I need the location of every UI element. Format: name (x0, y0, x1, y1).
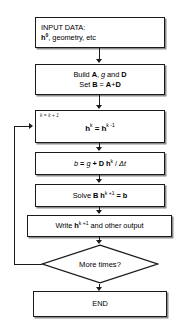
arrowhead-rhs-to-solve-icon (96, 179, 102, 183)
node-solve-system[interactable]: Solve B hk +1 = b (35, 184, 165, 207)
node-iteration-update[interactable]: k = k + 1 hk = hk -1 (35, 110, 165, 143)
build-set-verb: Set (79, 80, 92, 89)
write-h-superscript: k +1 (79, 220, 89, 226)
build-line-2: Set B = A+D (79, 80, 120, 90)
arrowhead-decision-to-end-icon (96, 287, 102, 291)
solve-equals: = (115, 191, 123, 200)
decision-label: More times? (41, 244, 159, 284)
write-suffix: and other output (89, 221, 144, 230)
write-output-text: Write hk +1 and other output (55, 221, 143, 231)
rhs-dh-term: D h (99, 159, 111, 168)
iterate-h-rhs-superscript: k -1 (106, 122, 115, 128)
feedback-loop-segment-bottom (14, 264, 42, 265)
solve-b-rhs: b (123, 191, 127, 200)
build-sep-2: and (105, 70, 121, 79)
node-decision-more-times[interactable]: More times? (41, 244, 159, 284)
node-build-matrices[interactable]: Build A, g and D Set B = A+D (35, 64, 165, 95)
end-label: END (92, 299, 107, 309)
rhs-equation: b = g + D hk / Δt (74, 159, 126, 169)
arrowhead-solve-to-write-icon (96, 210, 102, 214)
iteration-counter-label: k = k + 1 (40, 113, 59, 119)
build-matrix-d: D (121, 70, 126, 79)
rhs-plus: + (90, 159, 98, 168)
arrowhead-iterate-to-rhs-icon (96, 147, 102, 151)
rhs-delta-t: Δt (119, 159, 126, 168)
build-equals: = (98, 80, 106, 89)
solve-bh-superscript: k +1 (105, 189, 115, 195)
feedback-loop-segment-vertical (14, 126, 15, 265)
build-verb: Build (73, 70, 91, 79)
solve-equation: Solve B hk +1 = b (73, 191, 128, 201)
write-verb: Write (55, 221, 74, 230)
input-data-detail: h0, geometry, etc (41, 33, 96, 43)
arrowhead-input-to-build-icon (96, 59, 102, 63)
arrowhead-feedback-loop-icon (29, 123, 33, 129)
solve-verb: Solve (73, 191, 93, 200)
arrowhead-build-to-iterate-icon (96, 105, 102, 109)
iteration-equation: hk = hk -1 (36, 120, 164, 134)
arrowhead-write-to-decision-icon (96, 240, 102, 244)
node-write-output[interactable]: Write hk +1 and other output (27, 215, 172, 237)
node-end[interactable]: END (33, 291, 167, 317)
solve-bh-term: B h (93, 191, 105, 200)
node-input-data[interactable]: INPUT DATA: h0, geometry, etc (35, 17, 165, 48)
input-detail-text: , geometry, etc (48, 33, 96, 42)
flowchart-canvas: INPUT DATA: h0, geometry, etc Build A, g… (0, 0, 182, 325)
node-compute-rhs[interactable]: b = g + D hk / Δt (35, 152, 165, 175)
iterate-equals: = (93, 124, 102, 133)
build-sum-d: D (115, 80, 120, 89)
build-line-1: Build A, g and D (73, 70, 126, 80)
